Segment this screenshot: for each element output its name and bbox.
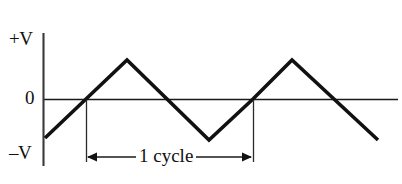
cycle-span-label: 1 cycle: [136, 146, 196, 165]
cycle-arrowhead-right-icon: [242, 153, 252, 162]
axis-label-zero: 0: [25, 88, 34, 107]
waveform-figure: +V 0 –V 1 cycle: [0, 0, 402, 184]
axis-label-negative-v: –V: [9, 143, 31, 162]
axis-label-positive-v: +V: [9, 29, 32, 48]
cycle-arrowhead-left-icon: [87, 153, 97, 162]
triangle-wave-plot: [0, 0, 402, 184]
